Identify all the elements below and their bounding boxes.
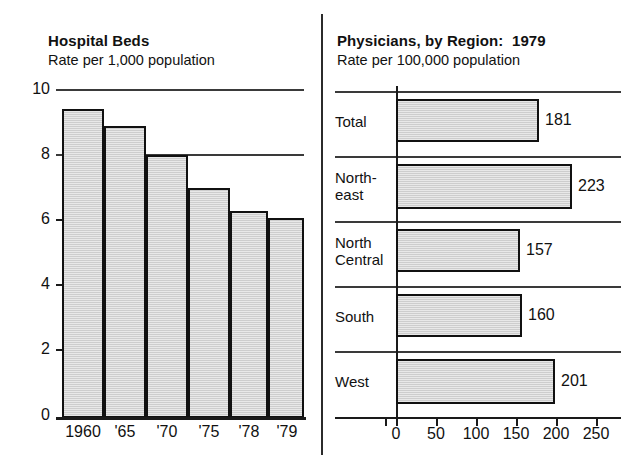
bar-north-central — [396, 229, 520, 272]
rowline-4 — [335, 351, 621, 353]
ytick-label-4: 4 — [6, 275, 50, 293]
value-label-total: 181 — [545, 111, 572, 129]
right-chart-title: Physicians, by Region: 1979 — [337, 32, 546, 49]
xtick-label-150: 150 — [494, 425, 538, 443]
bar-1979 — [268, 218, 304, 418]
value-label-west: 201 — [561, 372, 588, 390]
bar-1975 — [188, 188, 230, 418]
bar-1978 — [230, 211, 268, 418]
rowline-top — [335, 91, 621, 93]
bar-1965 — [104, 126, 146, 418]
bar-northeast — [396, 164, 572, 209]
value-label-south: 160 — [528, 306, 555, 324]
left-chart-baseline — [56, 417, 306, 420]
xtick-label-200: 200 — [534, 425, 578, 443]
bar-south — [396, 294, 522, 337]
xtick-label-0: 0 — [381, 425, 411, 443]
gridline-10 — [56, 89, 304, 91]
bar-1960 — [62, 109, 104, 418]
bar-total — [396, 99, 539, 142]
ytick-label-0: 0 — [6, 406, 50, 424]
bar-west — [396, 359, 555, 404]
category-label-total: Total — [335, 113, 367, 130]
value-label-north-central: 157 — [526, 241, 553, 259]
rowline-3 — [335, 286, 621, 288]
bar-1970 — [146, 155, 188, 418]
category-label-west: West — [335, 373, 369, 390]
value-label-northeast: 223 — [578, 177, 605, 195]
rowline-1 — [335, 156, 621, 158]
right-chart-subtitle: Rate per 100,000 population — [337, 52, 520, 68]
xtick-label-1960: 1960 — [58, 423, 108, 441]
hospital-beds-chart: Hospital Beds Rate per 1,000 population … — [0, 0, 321, 469]
xtick-label-100: 100 — [454, 425, 498, 443]
left-chart-title: Hospital Beds — [48, 32, 149, 49]
ytick-label-6: 6 — [6, 210, 50, 228]
physicians-by-region-chart: Physicians, by Region: 1979 Rate per 100… — [321, 0, 642, 469]
right-chart-axis-line — [335, 417, 621, 419]
category-label-north-central: North Central — [335, 234, 383, 268]
figure-root: Hospital Beds Rate per 1,000 population … — [0, 0, 642, 469]
ytick-label-10: 10 — [6, 80, 50, 98]
xtick-label-1970: '70 — [144, 423, 190, 441]
xtick-label-1979: '79 — [265, 423, 309, 441]
ytick-label-2: 2 — [6, 340, 50, 358]
xtick-label-50: 50 — [418, 425, 454, 443]
xtick-label-1965: '65 — [102, 423, 148, 441]
rowline-2 — [335, 221, 621, 223]
left-chart-subtitle: Rate per 1,000 population — [48, 52, 215, 68]
xtick-label-250: 250 — [574, 425, 618, 443]
category-label-south: South — [335, 308, 374, 325]
category-label-northeast: North- east — [335, 169, 377, 203]
ytick-label-8: 8 — [6, 145, 50, 163]
